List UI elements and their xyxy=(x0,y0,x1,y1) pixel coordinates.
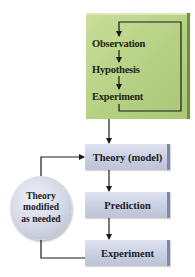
connector-lines xyxy=(0,0,195,277)
circle-to-theory-arrow xyxy=(41,157,84,176)
experiment-to-circle-line xyxy=(41,240,85,258)
observation-loop-arrow xyxy=(119,22,181,111)
